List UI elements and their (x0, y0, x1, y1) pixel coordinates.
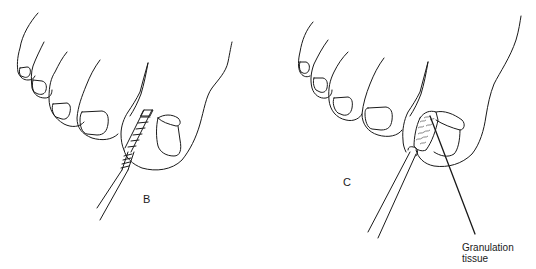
granulation-tissue-callout: Granulation tissue (462, 242, 514, 264)
callout-line1: Granulation (462, 242, 514, 253)
panel-label-c: C (343, 176, 351, 188)
callout-line2: tissue (462, 253, 514, 264)
panel-c: C Granulation tissue (268, 0, 536, 269)
foot-illustration-b (0, 0, 268, 269)
foot-illustration-c (268, 0, 536, 269)
panel-label-b: B (143, 193, 150, 205)
callout-leader-line (430, 116, 475, 234)
panel-b: B (0, 0, 268, 269)
